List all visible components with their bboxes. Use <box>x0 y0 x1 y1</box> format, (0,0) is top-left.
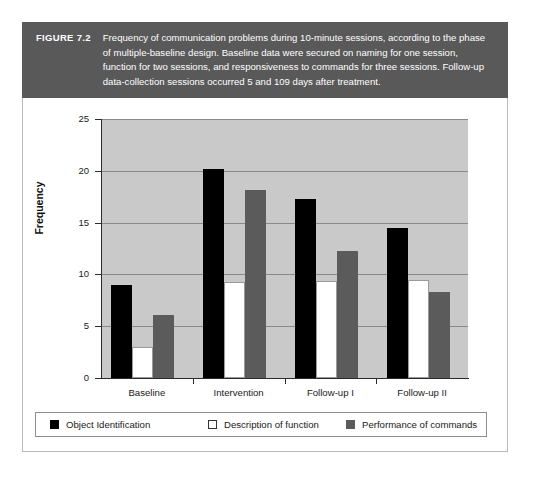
bar <box>132 347 153 378</box>
figure-number-label: FIGURE 7.2 <box>36 31 91 98</box>
bar <box>224 282 245 378</box>
x-axis-category-label: Follow-up I <box>307 387 354 398</box>
y-axis-tick <box>95 223 101 224</box>
y-axis-title: Frequency <box>33 148 45 268</box>
legend-label: Object Identification <box>66 419 150 430</box>
x-axis-category-label: Follow-up II <box>397 387 447 398</box>
x-axis-category-label: Intervention <box>214 387 264 398</box>
bar <box>295 199 316 378</box>
legend-item: Description of function <box>208 419 319 430</box>
bar <box>429 292 450 378</box>
bar <box>203 169 224 378</box>
x-axis-tick <box>193 379 194 384</box>
figure-caption-band: FIGURE 7.2 Frequency of communication pr… <box>22 22 508 98</box>
y-axis-tick <box>95 274 101 275</box>
bar <box>408 280 429 378</box>
gridline <box>101 274 468 275</box>
bar <box>387 228 408 378</box>
y-axis-tick-label: 0 <box>23 372 89 383</box>
x-axis-tick <box>285 379 286 384</box>
figure-caption-text: Frequency of communication problems duri… <box>103 31 494 98</box>
gridline <box>101 119 468 120</box>
bar <box>245 190 266 378</box>
legend-swatch <box>50 420 59 429</box>
y-axis-tick <box>95 326 101 327</box>
legend-swatch <box>208 420 217 429</box>
y-axis-tick <box>95 119 101 120</box>
y-axis-tick-label: 25 <box>23 113 89 124</box>
chart-region: 0510152025 Frequency BaselineInterventio… <box>23 98 507 451</box>
bar <box>111 285 132 378</box>
y-axis-tick-label: 5 <box>23 320 89 331</box>
y-axis-tick <box>95 171 101 172</box>
bar <box>153 315 174 378</box>
x-axis-tick <box>376 379 377 384</box>
legend-label: Description of function <box>224 419 319 430</box>
x-axis-category-label: Baseline <box>128 387 165 398</box>
bar <box>337 251 358 378</box>
legend-item: Object Identification <box>50 419 150 430</box>
gridline <box>101 171 468 172</box>
bar <box>316 281 337 378</box>
y-axis-tick-label: 10 <box>23 268 89 279</box>
gridline <box>101 223 468 224</box>
chart-legend: Object IdentificationDescription of func… <box>35 412 487 437</box>
legend-swatch <box>346 420 355 429</box>
legend-item: Performance of commands <box>346 419 477 430</box>
plot-area <box>101 119 468 378</box>
y-axis-line <box>101 119 102 379</box>
y-axis-tick <box>95 378 101 379</box>
legend-label: Performance of commands <box>362 419 477 430</box>
